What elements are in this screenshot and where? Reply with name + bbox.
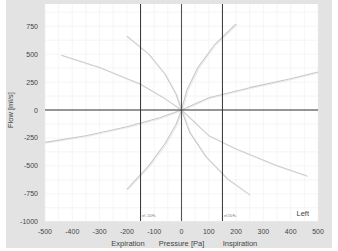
svg-text:-200: -200 bbox=[120, 228, 134, 235]
ref-line-label-left: ref −150 Pa bbox=[142, 214, 156, 218]
svg-text:-100: -100 bbox=[147, 228, 161, 235]
flow-pressure-chart: 7505002500-250-500-750-1000 -500-400-300… bbox=[0, 0, 338, 251]
y-axis-ticks: 7505002500-250-500-750-1000 bbox=[20, 23, 38, 225]
svg-text:100: 100 bbox=[203, 228, 215, 235]
corner-label: Left bbox=[296, 209, 309, 218]
svg-text:-500: -500 bbox=[24, 162, 38, 169]
svg-text:-400: -400 bbox=[65, 228, 79, 235]
x-axis-ticks: -500-400-300-200-1000100200300400500 bbox=[38, 228, 324, 235]
svg-text:-1000: -1000 bbox=[20, 218, 38, 225]
curve-7 bbox=[182, 110, 250, 195]
x-axis-label: Pressure [Pa] bbox=[159, 239, 204, 248]
svg-text:0: 0 bbox=[180, 228, 184, 235]
y-axis-label: Flow [ml/s] bbox=[6, 92, 15, 128]
svg-text:500: 500 bbox=[26, 51, 38, 58]
ref-line-label-right: ref 150 Pa bbox=[224, 214, 237, 218]
x-axis-label-expiration: Expiration bbox=[111, 239, 144, 248]
curve-1 bbox=[61, 55, 181, 110]
svg-text:300: 300 bbox=[258, 228, 270, 235]
svg-text:200: 200 bbox=[230, 228, 242, 235]
svg-text:-250: -250 bbox=[24, 134, 38, 141]
svg-text:-300: -300 bbox=[93, 228, 107, 235]
svg-text:-750: -750 bbox=[24, 190, 38, 197]
svg-text:400: 400 bbox=[285, 228, 297, 235]
svg-text:500: 500 bbox=[312, 228, 324, 235]
x-axis-label-inspiration: Inspiration bbox=[223, 239, 258, 248]
svg-text:250: 250 bbox=[26, 79, 38, 86]
svg-text:0: 0 bbox=[34, 107, 38, 114]
svg-text:-500: -500 bbox=[38, 228, 52, 235]
svg-text:750: 750 bbox=[26, 23, 38, 30]
